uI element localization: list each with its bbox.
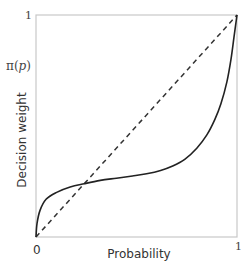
x-tick-0: 0	[33, 243, 41, 257]
y-tick-1: 1	[25, 9, 32, 22]
identity-diagonal-line	[36, 15, 237, 237]
y-axis-title: Decision weight	[15, 92, 29, 187]
x-axis-title: Probability	[107, 247, 170, 261]
y-symbol-prefix: π(	[6, 59, 19, 73]
x-tick-1: 1	[235, 240, 242, 253]
y-symbol-suffix: )	[26, 59, 31, 73]
y-axis-symbol: π(p)	[6, 59, 31, 73]
chart-canvas	[0, 0, 252, 270]
